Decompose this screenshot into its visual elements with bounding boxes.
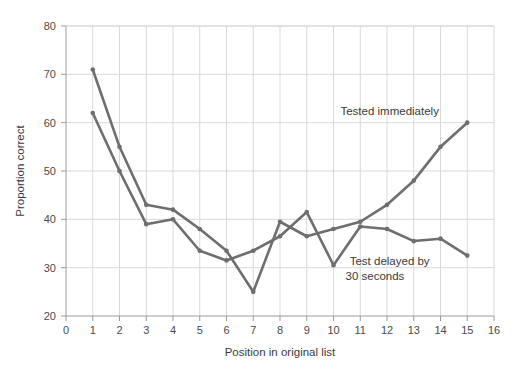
x-tick-label: 11 bbox=[355, 324, 366, 336]
data-point bbox=[465, 120, 470, 125]
data-point bbox=[278, 219, 283, 224]
x-tick-label: 3 bbox=[143, 324, 149, 336]
data-point bbox=[278, 234, 283, 239]
x-tick-label: 4 bbox=[170, 324, 176, 336]
data-point bbox=[331, 263, 336, 268]
data-point bbox=[411, 178, 416, 183]
data-point bbox=[251, 248, 256, 253]
x-tick-label: 12 bbox=[381, 324, 393, 336]
x-tick-label: 2 bbox=[116, 324, 122, 336]
data-point bbox=[171, 217, 176, 222]
data-point bbox=[465, 253, 470, 258]
data-point bbox=[385, 203, 390, 208]
data-point bbox=[331, 227, 336, 232]
data-point bbox=[438, 145, 443, 150]
data-point bbox=[438, 236, 443, 241]
y-tick-label: 40 bbox=[44, 213, 56, 225]
series-annotation-label: Tested immediately bbox=[340, 105, 439, 117]
data-point bbox=[90, 111, 95, 116]
data-point bbox=[197, 227, 202, 232]
data-point bbox=[385, 227, 390, 232]
data-point bbox=[171, 207, 176, 212]
x-tick-label: 10 bbox=[327, 324, 339, 336]
data-point bbox=[304, 210, 309, 215]
data-point bbox=[358, 219, 363, 224]
data-point bbox=[304, 234, 309, 239]
data-point bbox=[251, 290, 256, 295]
y-tick-label: 30 bbox=[44, 262, 56, 274]
data-point bbox=[117, 169, 122, 174]
data-point bbox=[144, 222, 149, 227]
data-point bbox=[144, 203, 149, 208]
line-chart: 012345678910111213141516 20304050607080 … bbox=[0, 0, 525, 371]
data-point bbox=[117, 145, 122, 150]
series-annotation-label: 30 seconds bbox=[346, 270, 405, 282]
y-tick-label: 50 bbox=[44, 165, 56, 177]
x-tick-label: 6 bbox=[223, 324, 229, 336]
data-point bbox=[197, 248, 202, 253]
chart-container: 012345678910111213141516 20304050607080 … bbox=[0, 0, 525, 371]
y-tick-label: 80 bbox=[44, 20, 56, 32]
chart-background bbox=[0, 0, 525, 371]
y-tick-label: 70 bbox=[44, 68, 56, 80]
series-annotation-label: Test delayed by bbox=[350, 255, 430, 267]
x-tick-label: 15 bbox=[461, 324, 473, 336]
y-axis-title: Proportion correct bbox=[14, 124, 26, 216]
y-tick-label: 20 bbox=[44, 310, 56, 322]
x-axis-title: Position in original list bbox=[225, 346, 336, 358]
data-point bbox=[224, 248, 229, 253]
x-tick-label: 0 bbox=[63, 324, 69, 336]
x-tick-label: 1 bbox=[90, 324, 96, 336]
x-tick-label: 7 bbox=[250, 324, 256, 336]
y-tick-label: 60 bbox=[44, 117, 56, 129]
x-tick-label: 14 bbox=[434, 324, 446, 336]
x-tick-label: 16 bbox=[488, 324, 500, 336]
data-point bbox=[90, 67, 95, 72]
data-point bbox=[224, 258, 229, 263]
x-tick-label: 9 bbox=[304, 324, 310, 336]
x-tick-label: 13 bbox=[408, 324, 420, 336]
data-point bbox=[358, 224, 363, 229]
x-tick-label: 8 bbox=[277, 324, 283, 336]
data-point bbox=[411, 239, 416, 244]
x-tick-label: 5 bbox=[197, 324, 203, 336]
